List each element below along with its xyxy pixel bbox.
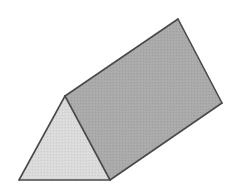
figure-canvas [0, 0, 238, 190]
triangular-prism-svg [0, 0, 238, 190]
